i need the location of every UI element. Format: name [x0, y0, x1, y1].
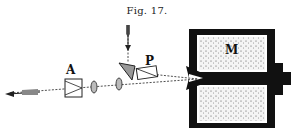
- magnet-label: M: [225, 44, 238, 56]
- reflecting-prism: [119, 63, 135, 80]
- analyzer-label: A: [66, 64, 75, 76]
- lens-1: [91, 81, 97, 93]
- exit-light-arrow-icon: [5, 89, 40, 97]
- incoming-light-arrow-icon: [125, 25, 131, 51]
- polarizer-label: P: [145, 55, 154, 67]
- kerr-effect-figure: Fig. 17.: [0, 0, 294, 132]
- lens-2: [116, 78, 122, 90]
- analyzer: [65, 79, 82, 97]
- light-path: [10, 28, 198, 93]
- electromagnet: [186, 29, 291, 128]
